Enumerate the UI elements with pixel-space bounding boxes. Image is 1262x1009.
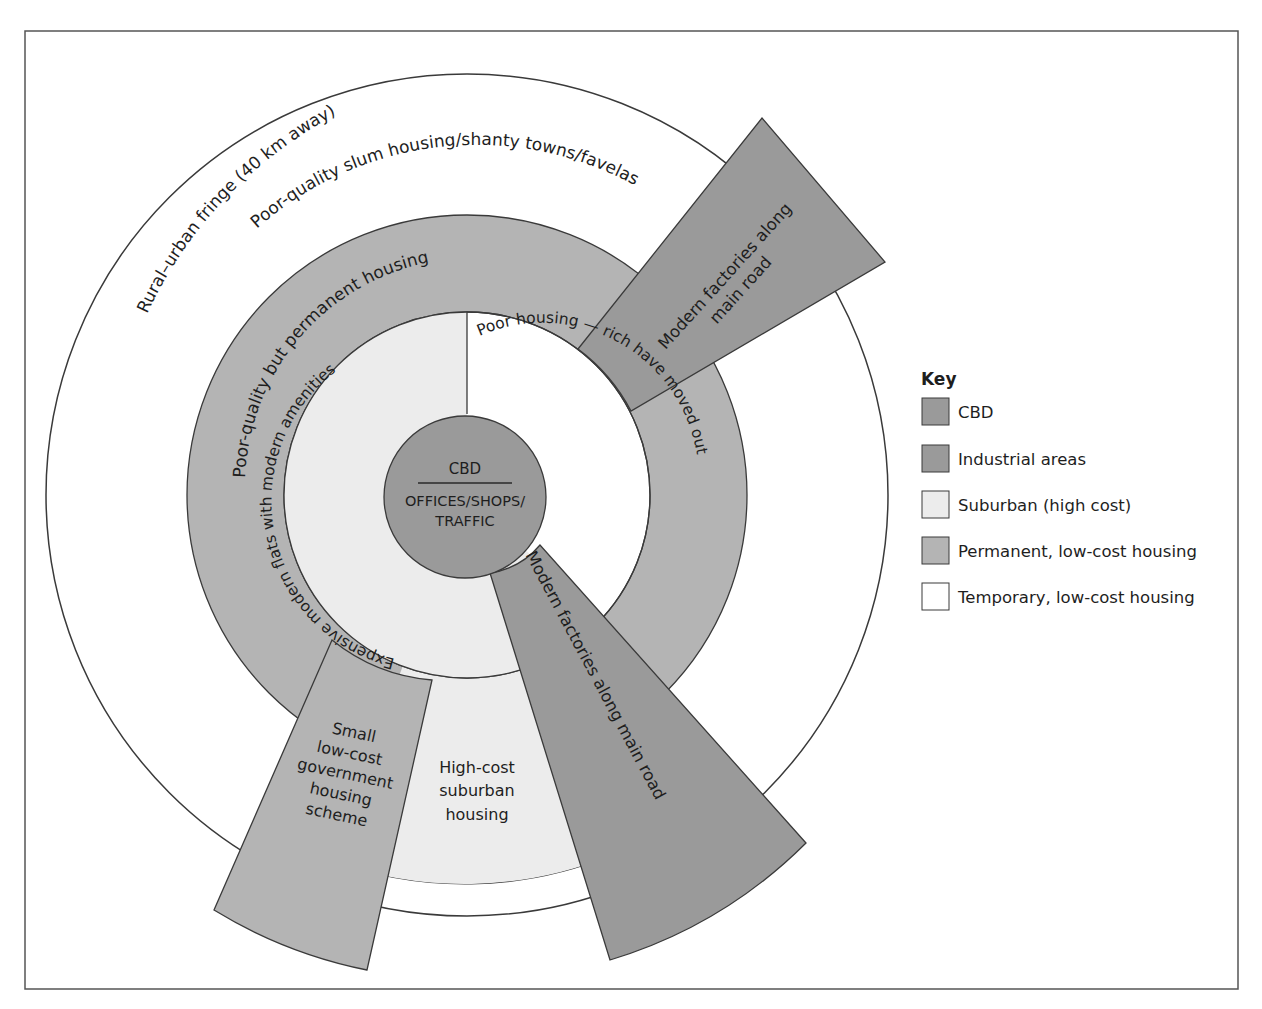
legend-item-industrial: Industrial areas [922, 445, 1086, 472]
legend-label-suburban: Suburban (high cost) [958, 496, 1131, 515]
legend-label-cbd: CBD [958, 403, 994, 422]
svg-text:housing: housing [445, 805, 508, 824]
legend-swatch-cbd [922, 398, 949, 425]
label-cbd-offices: OFFICES/SHOPS/ [405, 493, 525, 509]
legend-swatch-temporary [922, 583, 949, 610]
legend-item-cbd: CBD [922, 398, 994, 425]
svg-text:High-cost: High-cost [439, 758, 515, 777]
legend-item-temporary: Temporary, low-cost housing [922, 583, 1195, 610]
city-model-diagram: Rural–urban fringe (40 km away) Poor-qua… [0, 0, 1262, 1009]
label-high-cost-suburban: High-cost suburban housing [439, 758, 515, 824]
label-cbd-traffic: TRAFFIC [434, 513, 494, 529]
legend-label-temporary: Temporary, low-cost housing [957, 588, 1195, 607]
legend-label-industrial: Industrial areas [958, 450, 1086, 469]
legend-swatch-permanent [922, 537, 949, 564]
legend-swatch-suburban [922, 491, 949, 518]
legend-label-permanent: Permanent, low-cost housing [958, 542, 1197, 561]
svg-text:suburban: suburban [439, 781, 514, 800]
label-cbd: CBD [449, 460, 481, 478]
legend-title: Key [921, 369, 957, 389]
legend-swatch-industrial [922, 445, 949, 472]
legend-item-permanent: Permanent, low-cost housing [922, 537, 1197, 564]
